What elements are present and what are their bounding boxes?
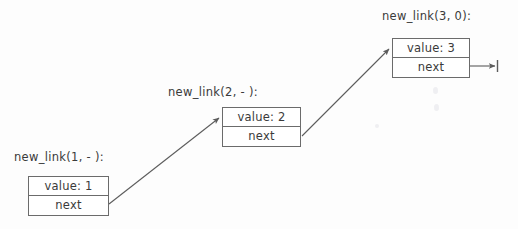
scan-artifact (433, 87, 438, 94)
node1-next-cell: next (29, 196, 108, 215)
node2-next-cell: next (223, 127, 300, 146)
scan-artifact (434, 104, 439, 111)
node1-box: value: 1 next (28, 176, 109, 216)
node2-box: value: 2 next (222, 107, 301, 147)
scan-artifact (375, 124, 379, 128)
diagram-canvas: new_link(1, - ): value: 1 next new_link(… (0, 0, 518, 229)
node1-caption: new_link(1, - ): (14, 150, 104, 164)
node3-value-cell: value: 3 (393, 39, 469, 58)
node3-next-cell: next (393, 58, 469, 77)
link-node2-to-node3 (302, 49, 389, 136)
node1-value-cell: value: 1 (29, 177, 108, 196)
node2-caption: new_link(2, - ): (168, 85, 258, 99)
link-node1-to-node2 (109, 118, 219, 204)
node3-box: value: 3 next (392, 38, 470, 78)
node3-caption: new_link(3, 0): (382, 9, 471, 23)
node2-value-cell: value: 2 (223, 108, 300, 127)
